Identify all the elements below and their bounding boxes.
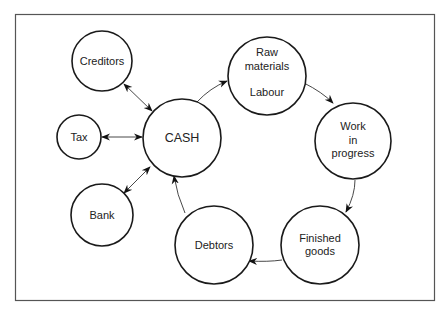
- cash-cycle-diagram: Creditors Tax CASH Bank Raw materials La…: [0, 0, 447, 313]
- node-label-line: in: [349, 134, 358, 146]
- node-tax: Tax: [57, 115, 101, 159]
- node-label-line: Work: [340, 120, 366, 132]
- edge-wip-finished: [346, 180, 355, 212]
- node-label: Tax: [70, 131, 88, 143]
- edge-cash-raw: [197, 81, 227, 102]
- node-raw-materials-labour: Raw materials Labour: [228, 37, 306, 115]
- edge-debtors-cash: [174, 176, 185, 213]
- node-label-line: materials: [245, 60, 290, 72]
- node-label: Bank: [89, 209, 115, 221]
- node-label: Debtors: [195, 239, 234, 251]
- node-debtors: Debtors: [175, 206, 253, 284]
- node-label: Creditors: [80, 55, 125, 67]
- node-label-line: goods: [305, 245, 335, 257]
- node-label: CASH: [165, 131, 200, 145]
- node-label-line: Labour: [250, 86, 285, 98]
- node-label-line: progress: [332, 147, 375, 159]
- node-work-in-progress: Work in progress: [315, 103, 391, 179]
- node-creditors: Creditors: [72, 31, 132, 91]
- node-bank: Bank: [71, 184, 133, 246]
- edge-finished-debtors: [249, 260, 282, 261]
- node-cash: CASH: [143, 99, 221, 177]
- node-label-line: Finished: [299, 232, 341, 244]
- edge-creditors-cash: [124, 84, 152, 111]
- node-finished-goods: Finished goods: [281, 206, 359, 284]
- node-label-line: Raw: [256, 46, 278, 58]
- edge-bank-cash: [124, 167, 150, 193]
- edge-raw-wip: [304, 83, 333, 103]
